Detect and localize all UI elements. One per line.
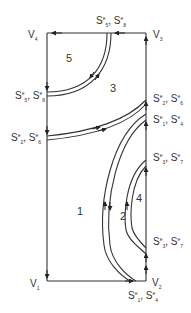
arrow-arc-top-b bbox=[95, 74, 99, 80]
region-label-3: 3 bbox=[110, 82, 116, 94]
region-label-1: 1 bbox=[77, 205, 83, 217]
vertex-label-v4: V4 bbox=[28, 30, 37, 40]
region-label-4: 4 bbox=[136, 192, 142, 204]
seam-arc-small-outer bbox=[125, 160, 146, 254]
vertex-label-v2: V2 bbox=[152, 278, 161, 288]
vertex-label-v3: V3 bbox=[153, 30, 162, 40]
region-label-5: 5 bbox=[66, 52, 72, 64]
seam-label-left-lower: Se2, Se6 bbox=[11, 133, 41, 143]
seam-label-right-inner-top: Se3, Se7 bbox=[153, 153, 183, 163]
seam-arc-small-inner bbox=[131, 166, 146, 248]
seam-label-bottom: Se1, Se4 bbox=[128, 291, 158, 301]
seam-label-right-upper: Se2, Se6 bbox=[153, 94, 183, 104]
seam-arc-mid-upper bbox=[47, 100, 146, 136]
region-label-2: 2 bbox=[120, 210, 126, 222]
seam-label-top: Se5, Se8 bbox=[96, 16, 126, 26]
seam-label-left-upper: Se5, Se8 bbox=[15, 91, 45, 101]
seam-arc-top-inner bbox=[47, 33, 107, 92]
seam-label-right-inner-bottom: Se3, Se7 bbox=[153, 237, 183, 247]
seam-label-right-mid: Se1, Se4 bbox=[153, 115, 183, 125]
seam-arc-top-outer bbox=[47, 33, 111, 96]
vertex-label-v1: V1 bbox=[30, 279, 39, 289]
